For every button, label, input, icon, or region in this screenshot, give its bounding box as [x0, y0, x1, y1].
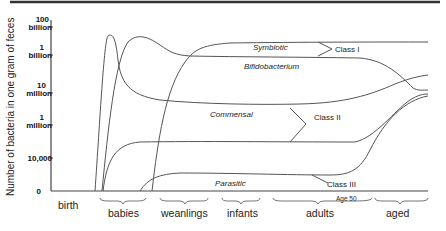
- label-commensal: Commensal: [210, 110, 253, 119]
- class-ii-pointer: [290, 108, 306, 142]
- category-infants: infants: [227, 207, 258, 219]
- category-weanlings: weanlings: [160, 207, 208, 219]
- tick-10-million-bottom: million: [26, 89, 52, 98]
- label-class-iii: Class III: [327, 180, 356, 189]
- curve-bifidobacterium: [102, 37, 428, 191]
- label-age-50: Age 50: [336, 195, 357, 203]
- label-symbiotic: Symbiotic: [253, 43, 288, 52]
- class-iii-pointer: [312, 175, 328, 183]
- category-birth: birth: [58, 199, 79, 211]
- y-axis-label: Number of bacteria in one gram of feces: [5, 18, 16, 196]
- category-aged: aged: [386, 207, 410, 219]
- class-i-pointer: [318, 42, 332, 56]
- curve-commensal: [103, 94, 428, 191]
- tick-0: 0: [37, 187, 42, 196]
- label-bifidobacterium: Bifidobacterium: [244, 62, 299, 71]
- label-parasitic: Parasitic: [215, 179, 246, 188]
- curve-early-spike: [95, 35, 428, 191]
- tick-1-million-bottom: million: [26, 121, 52, 130]
- category-adults: adults: [306, 207, 334, 219]
- tick-10000: 10,000: [28, 154, 53, 163]
- label-class-ii: Class II: [314, 113, 341, 122]
- tick-100-billion-bottom: billion: [28, 23, 52, 32]
- curves: [95, 35, 428, 191]
- bacteria-age-chart: Number of bacteria in one gram of feces …: [0, 0, 446, 231]
- tick-1-billion-bottom: billion: [28, 51, 52, 60]
- label-class-i: Class I: [335, 45, 359, 54]
- curve-parasitic: [140, 96, 428, 191]
- category-babies: babies: [108, 207, 139, 219]
- x-braces: [100, 198, 428, 204]
- y-ticks: 100 billion 1 billion 10 million 1 milli…: [26, 15, 53, 196]
